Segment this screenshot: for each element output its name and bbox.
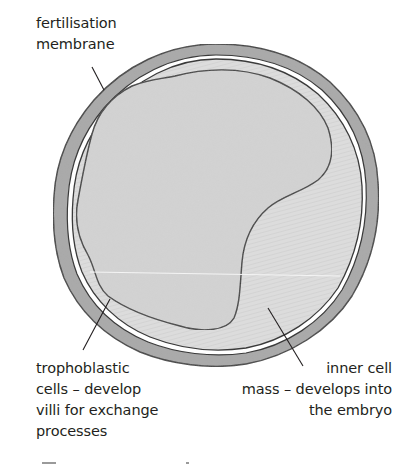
label-fertilisation-membrane: fertilisation membrane <box>36 13 117 55</box>
leader-line-fertilisation-membrane <box>92 67 104 90</box>
label-inner-cell-mass: inner cell mass – develops into the embr… <box>242 358 392 421</box>
label-trophoblastic-cells: trophoblastic cells – develop villi for … <box>36 358 158 442</box>
cropped-caption-fragment <box>40 457 240 464</box>
blastocyst-diagram: fertilisation membrane trophoblastic cel… <box>0 0 410 464</box>
